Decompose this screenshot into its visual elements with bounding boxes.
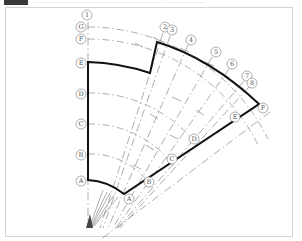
axis-label-F-left: F <box>79 35 84 43</box>
axis-bubbles <box>76 10 268 204</box>
axis-label-A-left: A <box>78 177 84 185</box>
axis-label-C-left: C <box>79 120 84 128</box>
fan-grid-diagram: 1 G F E D C B A 2 3 4 5 6 7 8 F E D C B … <box>0 0 302 241</box>
grid-ticks <box>133 37 244 169</box>
apex-lines <box>90 190 118 226</box>
axis-label-B-right: B <box>147 178 152 186</box>
radial-axis-8 <box>120 87 249 228</box>
axis-label-3: 3 <box>170 26 174 34</box>
radial-axis-6 <box>116 69 229 228</box>
arc-axis-D <box>88 93 198 146</box>
axis-label-A-right: A <box>126 195 132 203</box>
axis-label-2: 2 <box>163 23 167 31</box>
axis-label-D-right: D <box>191 135 196 143</box>
radial-axis-lines <box>88 22 270 240</box>
axis-label-B-left: B <box>79 151 84 159</box>
axis-label-E-right: E <box>233 113 238 121</box>
axis-label-E-left: E <box>79 59 84 67</box>
axis-label-F-right: F <box>261 104 266 112</box>
axis-label-6: 6 <box>230 60 234 68</box>
arc-axis-C <box>88 124 174 166</box>
arc-axis-G <box>88 27 268 139</box>
axis-label-G-left: G <box>78 23 83 31</box>
axis-label-8: 8 <box>250 79 254 87</box>
arc-axis-F <box>88 39 258 145</box>
axis-label-1: 1 <box>85 11 89 19</box>
axis-label-D-left: D <box>78 90 83 98</box>
axis-label-C-right: C <box>170 155 175 163</box>
axis-label-5: 5 <box>214 48 218 56</box>
radial-axis-7 <box>118 81 244 228</box>
axis-label-7: 7 <box>245 72 249 80</box>
axis-label-4: 4 <box>189 36 193 44</box>
